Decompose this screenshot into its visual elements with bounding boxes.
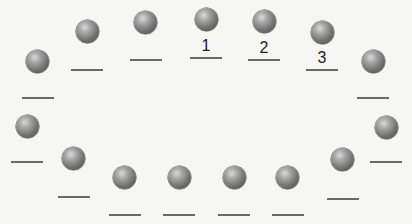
sphere-icon — [276, 166, 299, 189]
sphere-icon — [113, 166, 136, 189]
answer-blank-line — [327, 198, 359, 200]
answer-blank-line — [109, 214, 141, 216]
sphere-icon — [331, 148, 354, 171]
sphere-icon — [134, 11, 157, 34]
sphere-number-label: 3 — [306, 50, 338, 66]
sphere-icon — [16, 115, 39, 138]
answer-blank-line — [218, 214, 250, 216]
sphere-number-label: 2 — [248, 40, 280, 56]
sphere-icon — [362, 50, 385, 73]
sphere-icon — [26, 50, 49, 73]
answer-blank-line — [370, 161, 402, 163]
answer-blank-line — [22, 97, 54, 99]
sphere-icon — [76, 20, 99, 43]
sphere-icon — [375, 116, 398, 139]
sphere-icon — [62, 147, 85, 170]
sphere-oval-diagram: 123 — [0, 0, 412, 224]
answer-blank-line — [11, 161, 43, 163]
answer-blank-line — [190, 57, 222, 59]
sphere-number-label: 1 — [190, 38, 222, 54]
answer-blank-line — [71, 69, 103, 71]
answer-blank-line — [163, 214, 195, 216]
sphere-icon — [311, 21, 334, 44]
answer-blank-line — [272, 214, 304, 216]
answer-blank-line — [130, 59, 162, 61]
answer-blank-line — [248, 59, 280, 61]
answer-blank-line — [357, 97, 389, 99]
answer-blank-line — [58, 196, 90, 198]
answer-blank-line — [306, 69, 338, 71]
sphere-icon — [253, 10, 276, 33]
sphere-icon — [168, 166, 191, 189]
sphere-icon — [223, 166, 246, 189]
sphere-icon — [195, 8, 218, 31]
